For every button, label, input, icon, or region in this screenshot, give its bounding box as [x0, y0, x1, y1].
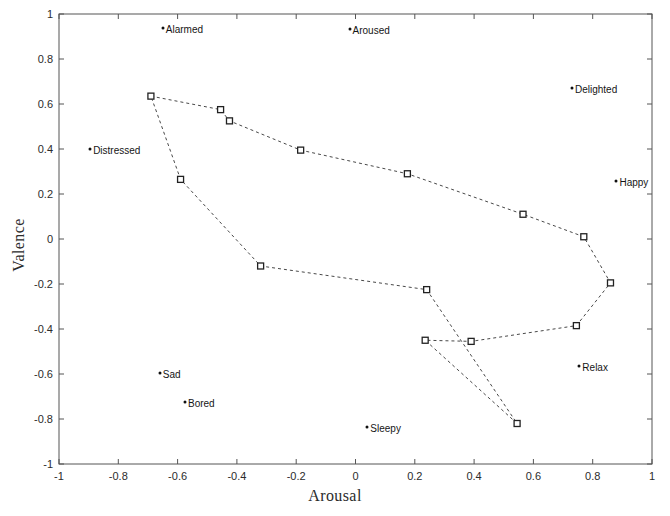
x-axis-title: Arousal — [0, 487, 670, 505]
x-tick-label: 1 — [649, 470, 655, 482]
y-tick-label: -0.8 — [34, 413, 53, 425]
emotion-dot — [184, 401, 187, 404]
data-series — [148, 93, 614, 426]
axis-ticks — [59, 14, 652, 464]
y-tick-label: 1 — [47, 8, 53, 20]
emotion-dot — [570, 87, 573, 90]
y-axis-title: Valence — [10, 190, 28, 300]
y-tick-label: -0.6 — [34, 368, 53, 380]
valence-arousal-chart: -1-0.8-0.6-0.4-0.200.20.40.60.81 10.80.6… — [0, 0, 670, 516]
emotion-dot — [158, 371, 161, 374]
x-tick-label: -0.2 — [287, 470, 306, 482]
y-tick-label: -0.4 — [34, 323, 53, 335]
x-tick-label: 0 — [352, 470, 358, 482]
plot-canvas — [0, 0, 670, 516]
emotion-label: Relax — [582, 362, 608, 373]
emotion-dot — [615, 179, 618, 182]
x-tick-label: -0.6 — [168, 470, 187, 482]
emotion-label: Delighted — [575, 84, 617, 95]
emotion-dot — [89, 148, 92, 151]
y-tick-label: -1 — [43, 458, 53, 470]
x-tick-label: 0.2 — [407, 470, 422, 482]
y-tick-label: 0.2 — [38, 188, 53, 200]
emotion-label: Bored — [188, 398, 215, 409]
emotion-dot — [578, 365, 581, 368]
emotion-label: Aroused — [353, 24, 390, 35]
emotion-dot — [161, 26, 164, 29]
x-tick-label: 0.4 — [466, 470, 481, 482]
x-tick-label: -1 — [54, 470, 64, 482]
axes-frame — [59, 14, 652, 464]
x-tick-label: -0.4 — [227, 470, 246, 482]
emotion-dot — [366, 425, 369, 428]
x-tick-label: -0.8 — [109, 470, 128, 482]
x-tick-label: 0.6 — [526, 470, 541, 482]
emotion-label: Happy — [619, 176, 648, 187]
y-tick-label: -0.2 — [34, 278, 53, 290]
y-tick-label: 0.4 — [38, 143, 53, 155]
emotion-label: Sleepy — [370, 422, 401, 433]
y-tick-label: 0.8 — [38, 53, 53, 65]
x-tick-label: 0.8 — [585, 470, 600, 482]
emotion-label: Distressed — [93, 145, 140, 156]
emotion-dot — [348, 27, 351, 30]
emotion-label: Sad — [163, 368, 181, 379]
y-tick-label: 0 — [47, 233, 53, 245]
y-tick-label: 0.6 — [38, 98, 53, 110]
emotion-label: Alarmed — [166, 23, 203, 34]
